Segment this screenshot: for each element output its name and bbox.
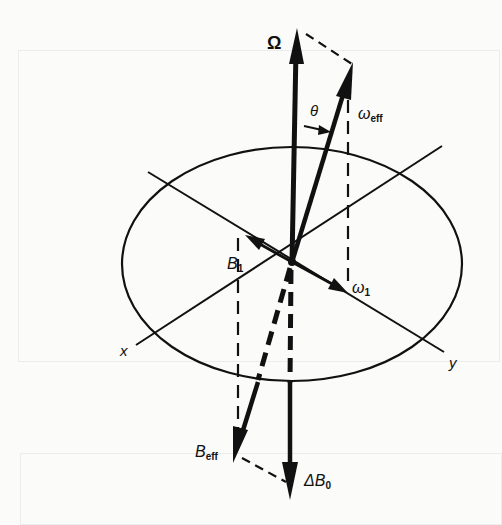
beff-label-main: B: [195, 443, 206, 460]
omega-label: Ω: [267, 34, 281, 52]
omega-eff-label-sub: eff: [370, 113, 382, 124]
deltab0-label: ΔB0: [304, 473, 331, 489]
dashed-beff-to-deltab0: [242, 458, 286, 482]
omega-arrowhead: [289, 28, 304, 64]
deltab0-label-sub: 0: [325, 480, 331, 491]
omega-vector: [292, 50, 296, 262]
beff-arrowhead: [233, 426, 248, 463]
x-axis-label: x: [120, 343, 128, 358]
y-axis-label: y: [449, 355, 457, 370]
omega1-label-sub: 1: [364, 287, 370, 298]
b1-label-main: B: [227, 255, 238, 272]
dashed-omega-to-omegaeff: [306, 34, 352, 64]
omega-eff-vector: [292, 85, 346, 262]
omega-eff-label: ωeff: [358, 106, 383, 122]
omega1-vector: [292, 262, 334, 285]
omega-eff-label-main: ω: [358, 105, 370, 122]
omega1-label: ω1: [352, 280, 370, 296]
beff-vector-dashed: [258, 268, 290, 380]
deltab0-vector-dashed: [290, 270, 291, 383]
beff-label-sub: eff: [206, 451, 218, 462]
omega1-arrowhead: [328, 278, 348, 293]
theta-label: θ: [310, 103, 318, 118]
origin-point: [288, 258, 296, 266]
b1-arrowhead: [245, 235, 265, 250]
b1-label: B1: [227, 256, 243, 272]
beff-label: Beff: [195, 444, 218, 460]
b1-label-sub: 1: [238, 263, 244, 274]
deltab0-label-main: ΔB: [304, 472, 325, 489]
omega1-label-main: ω: [352, 279, 364, 296]
omega-eff-arrowhead: [336, 62, 353, 100]
